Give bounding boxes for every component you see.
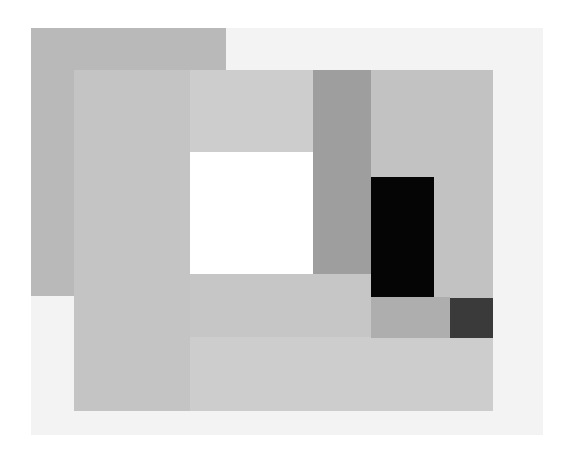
left-column — [74, 70, 190, 411]
black-rect — [371, 177, 434, 297]
artwork — [0, 0, 570, 461]
mid-gray-strip — [371, 297, 450, 338]
white-square — [190, 152, 313, 274]
inner-light-rect — [190, 274, 371, 337]
dark-gray-column — [313, 70, 371, 274]
charcoal-square — [450, 298, 493, 338]
